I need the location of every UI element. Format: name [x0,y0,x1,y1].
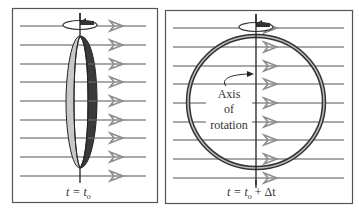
right-caption: t = to + Δt [227,185,276,201]
axis-label-line1: Axis [218,87,241,101]
axis-label-line2: of [224,102,234,116]
rotating-loop-diagram: t = to [0,0,359,213]
right-panel: Axis of rotation t = to + Δt [166,11,353,204]
axis-label-line3: rotation [210,118,247,132]
left-panel: t = to [13,9,158,203]
